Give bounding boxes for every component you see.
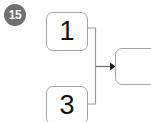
diagram-canvas: 15 1 3 [0, 0, 151, 122]
edge-from-node-three[interactable] [88, 67, 96, 105]
flow-node-target[interactable] [115, 48, 151, 85]
step-number-badge: 15 [4, 4, 26, 26]
flow-node-one[interactable]: 1 [46, 12, 88, 51]
edge-from-node-one[interactable] [88, 28, 96, 67]
flow-node-three[interactable]: 3 [46, 86, 88, 122]
flow-node-three-label: 3 [59, 92, 74, 119]
flow-node-one-label: 1 [59, 18, 74, 45]
